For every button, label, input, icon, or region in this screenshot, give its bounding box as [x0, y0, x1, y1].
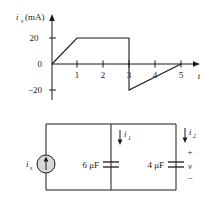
x-axis-label: t	[198, 71, 201, 81]
x-tick-label-4: 4	[153, 70, 158, 80]
source-label-symbol: i	[26, 159, 29, 169]
x-tick-label-5: 5	[179, 70, 184, 80]
x-tick-label-3: 3	[127, 70, 132, 80]
y-axis-arrowhead-icon	[49, 14, 55, 21]
figure-container: i s (mA) 20 0 −20 1 2 3 4 5 t i s 6 μF 4…	[0, 0, 213, 205]
i1-label-subscript: 1	[128, 135, 131, 141]
circuit-diagram	[37, 124, 187, 190]
y-axis-label-group: i s (mA)	[16, 12, 45, 24]
i1-label-symbol: i	[124, 129, 127, 139]
i2-label-subscript: 2	[193, 133, 196, 139]
i2-label-symbol: i	[189, 127, 192, 137]
source-label-group: i s	[26, 159, 33, 171]
voltage-label: v	[188, 161, 192, 171]
cap1-label: 6 μF	[82, 160, 99, 170]
i1-label-group: i 1	[124, 129, 131, 141]
y-axis-label-units: (mA)	[25, 12, 45, 22]
waveform-plot	[49, 14, 200, 100]
source-label-subscript: s	[30, 165, 33, 171]
y-tick-label-20: 20	[30, 33, 40, 43]
i2-arrow-head-icon	[183, 138, 188, 144]
y-axis-label-symbol: i	[16, 12, 19, 22]
voltage-minus-sign: −	[187, 173, 192, 183]
y-tick-label-minus20: −20	[28, 85, 43, 95]
i1-arrow-head-icon	[118, 140, 123, 146]
y-tick-label-0: 0	[38, 59, 43, 69]
cap2-label: 4 μF	[147, 160, 164, 170]
x-axis-arrowhead-icon	[193, 61, 200, 67]
figure-svg: i s (mA) 20 0 −20 1 2 3 4 5 t i s 6 μF 4…	[0, 0, 213, 205]
i2-label-group: i 2	[189, 127, 196, 139]
x-tick-label-2: 2	[101, 70, 106, 80]
voltage-plus-sign: +	[187, 147, 192, 157]
y-axis-label-subscript: s	[21, 18, 24, 24]
x-tick-label-1: 1	[75, 70, 80, 80]
